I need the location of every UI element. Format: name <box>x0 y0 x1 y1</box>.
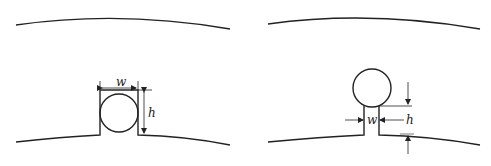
left-height-label: h <box>148 106 156 120</box>
panel-right: w h <box>268 18 480 154</box>
left-width-label: w <box>116 75 127 89</box>
right-height-label: h <box>406 113 414 127</box>
right-width-label: w <box>367 113 378 127</box>
panel-left: w h <box>16 18 230 145</box>
figure: w h w h <box>0 0 491 166</box>
diagram-canvas: w h w h <box>0 0 491 166</box>
left-top-arc <box>16 18 230 29</box>
right-top-arc <box>268 18 480 29</box>
right-conductor-circle <box>353 69 391 107</box>
left-conductor-circle <box>100 94 138 132</box>
left-bottom-contour <box>16 90 230 145</box>
